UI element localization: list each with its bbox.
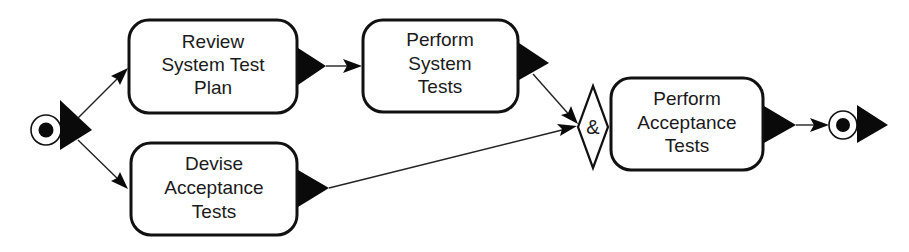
edge-start-to-review — [78, 68, 128, 118]
join-symbol: & — [586, 116, 600, 138]
activity-review-system-test-plan: Review System Test Plan — [129, 20, 326, 113]
edge-perform-acceptance-to-end — [796, 118, 829, 132]
activity-diagram: Review System Test Plan Perform System T… — [0, 0, 909, 252]
output-triangle-icon — [764, 106, 796, 143]
activity-perform-acceptance-tests: Perform Acceptance Tests — [611, 78, 796, 170]
activity-label-line: System Test — [161, 54, 265, 75]
edge-perform-system-to-join — [533, 74, 578, 124]
activity-label-line: Perform — [406, 29, 474, 50]
edge-devise-to-join — [329, 124, 577, 188]
end-output-triangle-icon — [857, 105, 888, 143]
activity-devise-acceptance-tests: Devise Acceptance Tests — [131, 143, 329, 235]
start-output-triangle-icon — [60, 100, 92, 150]
activity-label-line: Plan — [194, 77, 232, 98]
activity-label-line: Perform — [653, 88, 721, 109]
join-and-gateway: & — [578, 86, 608, 168]
activity-label-line: Tests — [665, 135, 709, 156]
end-node — [829, 105, 888, 143]
activity-label-line: Review — [182, 31, 245, 52]
activity-label-line: Devise — [185, 153, 243, 174]
activity-label-line: System — [408, 53, 471, 74]
end-dot-icon — [836, 118, 850, 132]
output-triangle-icon — [298, 170, 329, 207]
activity-label-line: Tests — [418, 76, 462, 97]
edge-review-to-perform-system — [326, 59, 362, 73]
activity-label-line: Tests — [192, 201, 236, 222]
edge-start-to-devise — [78, 140, 128, 189]
activity-label-line: Acceptance — [637, 112, 736, 133]
start-node — [31, 100, 92, 150]
output-triangle-icon — [298, 48, 326, 85]
activity-perform-system-tests: Perform System Tests — [363, 20, 549, 112]
activity-label-line: Acceptance — [164, 177, 263, 198]
start-dot-icon — [39, 123, 54, 138]
